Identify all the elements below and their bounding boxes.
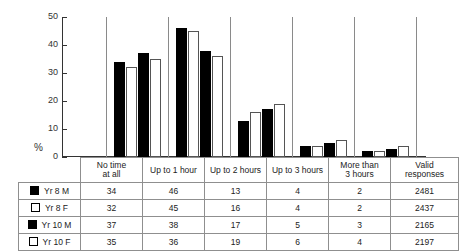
table-cell: 38 [143,217,205,234]
table-cell: 19 [205,234,267,251]
data-table-wrap: No timeat allUp to 1 hourUp to 2 hoursUp… [18,157,418,245]
legend-label: Yr 8 M [44,187,69,196]
bar-group [230,17,292,157]
bar [176,28,187,157]
table-cell: 2481 [391,183,459,200]
table-cell: 2 [329,183,391,200]
bar [138,53,149,157]
bar-group [292,17,354,157]
bar-group [106,17,168,157]
bar-group [354,17,416,157]
bar [114,62,125,157]
legend-label: Yr 10 M [42,221,72,230]
legend-label: Yr 8 F [45,204,68,213]
group-separator [106,17,107,157]
table-cell: 34 [81,183,143,200]
bar [324,143,335,157]
y-axis-tick-label: 20 [34,96,58,105]
column-header-line1: Up to 3 hours [267,166,328,175]
table-cell: 2 [329,200,391,217]
bar [262,109,273,157]
bar-chart-plot: 50403020100 % [0,0,426,160]
legend-header-cell [19,158,81,183]
column-header-line2: at all [81,170,142,179]
legend-swatch-icon [30,186,39,195]
bars-layer [62,17,426,157]
bar [336,140,347,157]
bar [386,149,397,157]
table-cell: 2197 [391,234,459,251]
table-cell: 6 [267,234,329,251]
table-column-header: No timeat all [81,158,143,183]
y-axis-tick-label: 10 [34,124,58,133]
column-header-line1: Up to 1 hour [143,166,204,175]
table-column-header: Up to 3 hours [267,158,329,183]
group-separator [416,17,417,157]
table-cell: 45 [143,200,205,217]
bar [250,112,261,157]
bar [398,146,409,157]
table-column-header: More than3 hours [329,158,391,183]
bar [212,56,223,157]
bar [312,146,323,157]
table-column-header: Up to 2 hours [205,158,267,183]
table-cell: 2165 [391,217,459,234]
column-header-line2: 3 hours [329,170,390,179]
table-column-header: Validresponses [391,158,459,183]
data-table: No timeat allUp to 1 hourUp to 2 hoursUp… [18,157,459,251]
bar [238,121,249,157]
legend-label: Yr 10 F [43,238,71,247]
legend-swatch-icon [31,203,40,212]
bar-group [168,17,230,157]
table-cell: 4 [329,234,391,251]
table-cell: 17 [205,217,267,234]
table-header-row: No timeat allUp to 1 hourUp to 2 hoursUp… [19,158,459,183]
legend-item: Yr 8 F [19,200,81,217]
bar [274,104,285,157]
table-cell: 37 [81,217,143,234]
bar [188,31,199,157]
y-axis-label: % [34,142,43,153]
column-header-line1: Up to 2 hours [205,166,266,175]
legend-item: Yr 10 M [19,217,81,234]
bar [300,146,311,157]
legend-swatch-icon [29,237,38,246]
bar [150,59,161,157]
table-cell: 35 [81,234,143,251]
bar [200,51,211,157]
table-cell: 5 [267,217,329,234]
table-cell: 4 [267,183,329,200]
table-row: Yr 8 M344613422481 [19,183,459,200]
legend-item: Yr 10 F [19,234,81,251]
y-axis-tick-label: 40 [34,40,58,49]
legend-item: Yr 8 M [19,183,81,200]
table-row: Yr 8 F324516422437 [19,200,459,217]
table-cell: 32 [81,200,143,217]
column-header-line2: responses [391,170,458,179]
table-cell: 16 [205,200,267,217]
table-column-header: Up to 1 hour [143,158,205,183]
y-axis-tick-label: 30 [34,68,58,77]
table-cell: 3 [329,217,391,234]
table-cell: 13 [205,183,267,200]
table-cell: 46 [143,183,205,200]
bar [126,67,137,157]
table-row: Yr 10 M373817532165 [19,217,459,234]
y-axis-tick-label: 50 [34,12,58,21]
table-cell: 4 [267,200,329,217]
legend-swatch-icon [28,220,37,229]
table-row: Yr 10 F353619642197 [19,234,459,251]
table-cell: 36 [143,234,205,251]
table-cell: 2437 [391,200,459,217]
